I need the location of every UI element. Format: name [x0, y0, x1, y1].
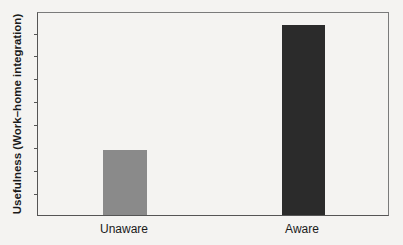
- y-tick: [34, 56, 38, 57]
- y-tick: [34, 102, 38, 103]
- y-axis-label: Usefulness (Work–home integration): [11, 14, 23, 214]
- y-tick: [34, 79, 38, 80]
- y-tick: [34, 125, 38, 126]
- x-tick-label-unaware: Unaware: [84, 222, 164, 236]
- y-tick: [34, 34, 38, 35]
- y-tick: [34, 171, 38, 172]
- bar-aware: [282, 25, 325, 215]
- plot-area: [37, 12, 389, 216]
- bar-unaware: [103, 150, 147, 215]
- y-tick: [34, 194, 38, 195]
- x-tick-label-aware: Aware: [262, 222, 342, 236]
- y-tick: [34, 148, 38, 149]
